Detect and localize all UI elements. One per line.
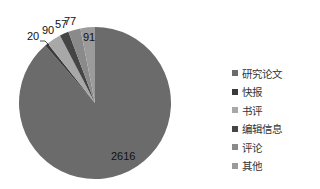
legend-label: 其他 xyxy=(242,158,262,173)
data-label-comment: 77 xyxy=(64,15,76,27)
data-label-other: 91 xyxy=(83,31,95,43)
legend-label: 研究论文 xyxy=(242,66,282,81)
legend-swatch xyxy=(232,163,238,169)
legend-swatch xyxy=(232,126,238,132)
legend-label: 编辑信息 xyxy=(242,121,282,136)
legend-label: 书评 xyxy=(242,103,262,118)
legend-swatch xyxy=(232,89,238,95)
legend-item-comment: 评论 xyxy=(232,138,282,157)
legend-item-other: 其他 xyxy=(232,157,282,176)
legend-item-editorial: 编辑信息 xyxy=(232,120,282,139)
legend-label: 快报 xyxy=(242,84,262,99)
data-label-research: 2616 xyxy=(111,150,135,162)
legend-swatch xyxy=(232,144,238,150)
legend-item-book-review: 书评 xyxy=(232,101,282,120)
legend-label: 评论 xyxy=(242,140,262,155)
legend-item-research: 研究论文 xyxy=(232,64,282,83)
data-label-brief: 20 xyxy=(27,30,39,42)
data-label-review: 90 xyxy=(42,24,54,36)
legend-item-brief: 快报 xyxy=(232,83,282,102)
legend-swatch xyxy=(232,107,238,113)
chart-legend: 研究论文 快报 书评 编辑信息 评论 其他 xyxy=(232,64,282,175)
legend-swatch xyxy=(232,70,238,76)
